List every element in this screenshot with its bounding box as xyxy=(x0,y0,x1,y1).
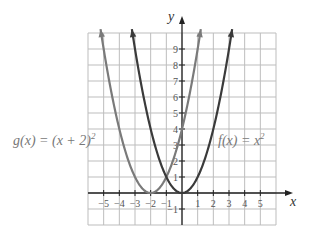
x-tick-label: −5 xyxy=(98,198,109,209)
axes xyxy=(88,16,293,225)
y-tick-label: 1 xyxy=(173,172,178,183)
y-tick-label: 6 xyxy=(173,92,178,103)
chart: −5−4−3−2−112345−1123456789 x y g(x) = (x… xyxy=(0,0,312,240)
x-tick-label: 1 xyxy=(195,198,200,209)
y-tick-label: 9 xyxy=(173,44,178,55)
series-label-f: f(x) = x2 xyxy=(218,131,265,149)
x-tick-label: −3 xyxy=(130,198,141,209)
y-tick-label: 8 xyxy=(173,60,178,71)
x-axis-label: x xyxy=(289,194,297,209)
x-tick-label: −4 xyxy=(114,198,125,209)
y-tick-label: 7 xyxy=(173,76,178,87)
y-axis-label: y xyxy=(166,9,175,24)
y-tick-label: −1 xyxy=(167,204,178,215)
x-tick-label: −2 xyxy=(145,198,156,209)
series-label-g: g(x) = (x + 2)2 xyxy=(13,131,96,149)
y-tick-label: 4 xyxy=(173,124,178,135)
y-tick-label: 5 xyxy=(173,108,178,119)
x-tick-label: 4 xyxy=(242,198,247,209)
x-tick-label: 5 xyxy=(258,198,263,209)
x-tick-label: 3 xyxy=(227,198,232,209)
y-axis-arrow-icon xyxy=(179,16,185,24)
x-tick-label: 2 xyxy=(211,198,216,209)
